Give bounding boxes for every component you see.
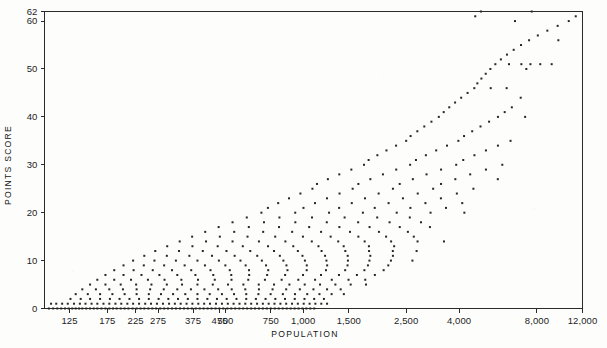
x-tick-label: 12,000 <box>568 315 598 326</box>
x-tick-label: 2,500 <box>394 315 418 326</box>
x-tick-label: 4,000 <box>447 315 471 326</box>
y-tick-label: 50 <box>27 63 38 74</box>
x-tick-label: 750 <box>263 315 279 326</box>
y-tick-label: 40 <box>27 111 38 122</box>
x-tick-label: 1,500 <box>337 315 361 326</box>
x-axis-title: POPULATION <box>271 329 338 339</box>
x-tick-label: 8,000 <box>525 315 549 326</box>
y-tick-label: 62 <box>27 6 38 17</box>
x-axis-ticks: 1251752252753754755007501,0001,5002,5004… <box>61 309 597 326</box>
y-tick-label: 0 <box>32 303 37 314</box>
y-tick-label: 20 <box>27 207 38 218</box>
x-tick-label: 375 <box>185 315 201 326</box>
plot-frame <box>45 12 583 309</box>
x-tick-label: 500 <box>217 315 233 326</box>
x-tick-label: 1,000 <box>291 315 315 326</box>
scatter-plot-chart: 1251752252753754755007501,0001,5002,5004… <box>0 0 607 348</box>
y-axis-ticks: 010203040506062 <box>27 6 45 314</box>
figure-page: 1251752252753754755007501,0001,5002,5004… <box>0 0 607 348</box>
y-axis-title: POINTS SCORE <box>3 125 13 205</box>
y-tick-label: 10 <box>27 255 38 266</box>
data-points <box>48 11 577 310</box>
x-tick-label: 225 <box>128 315 144 326</box>
x-tick-label: 125 <box>61 315 77 326</box>
y-tick-label: 30 <box>27 159 38 170</box>
y-tick-label: 60 <box>27 15 38 26</box>
x-tick-label: 175 <box>99 315 115 326</box>
x-tick-label: 275 <box>150 315 166 326</box>
